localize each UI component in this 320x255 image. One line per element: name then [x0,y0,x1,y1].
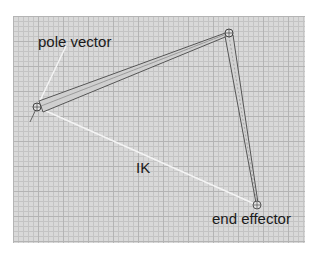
ik-label: IK [136,159,150,176]
end-effector-icon[interactable] [253,201,261,209]
ik-handle-line [37,107,257,205]
bone-lower [225,35,258,203]
root-joint-icon[interactable] [33,103,41,111]
mid-joint-icon[interactable] [225,29,233,37]
end-effector-label: end effector [212,210,291,227]
pole-vector-label: pole vector [38,33,111,50]
